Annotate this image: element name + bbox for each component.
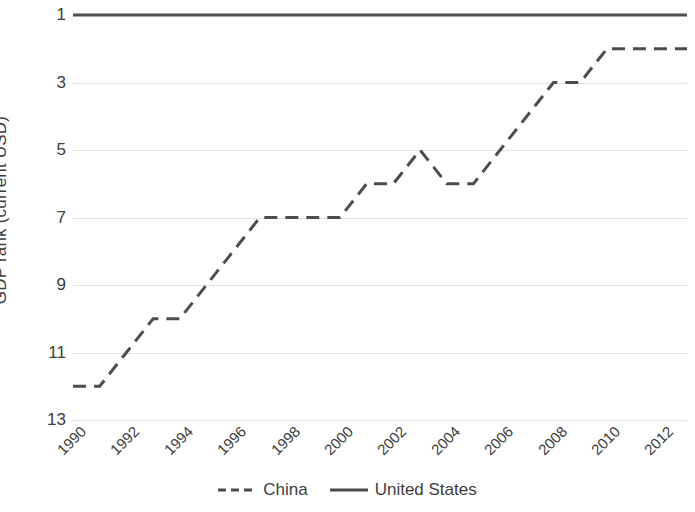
y-axis-tick-label: 1 [57, 5, 66, 25]
y-axis-tick-label: 13 [47, 410, 66, 430]
y-axis-tick-label: 7 [57, 208, 66, 228]
x-axis-tick-label: 2008 [530, 424, 566, 460]
x-axis-tick-label: 2002 [370, 424, 406, 460]
gdp-rank-line-chart: GDP rank (current USD) 135791113 1990199… [0, 0, 695, 512]
x-axis-tick-label: 1996 [210, 424, 246, 460]
x-axis-tick-label: 2006 [477, 424, 513, 460]
series-group [73, 0, 687, 420]
legend-swatch-dashed-icon [218, 484, 256, 496]
y-axis-tick-label: 11 [48, 343, 66, 363]
plot-area: 135791113 199019921994199619982000200220… [73, 0, 687, 420]
legend-entry-united-states[interactable]: United States [330, 480, 477, 500]
legend-label: China [263, 480, 307, 500]
y-axis-tick-label: 5 [57, 140, 66, 160]
y-axis-tick-label: 9 [57, 275, 66, 295]
y-axis-title: GDP rank (current USD) [0, 116, 11, 304]
gridline [73, 420, 687, 421]
x-axis-tick-label: 2004 [423, 424, 459, 460]
x-axis-tick-label: 2010 [583, 424, 619, 460]
x-axis-tick-label: 2012 [637, 424, 673, 460]
legend: ChinaUnited States [0, 480, 695, 500]
series-line-china [73, 49, 687, 387]
legend-label: United States [375, 480, 477, 500]
x-axis-tick-label: 1994 [156, 424, 192, 460]
legend-entry-china[interactable]: China [218, 480, 307, 500]
x-axis-tick-label: 2000 [316, 424, 352, 460]
y-axis-tick-label: 3 [57, 73, 66, 93]
x-axis-tick-label: 1992 [103, 424, 139, 460]
legend-swatch-solid-icon [330, 484, 368, 496]
x-axis-tick-label: 1998 [263, 424, 299, 460]
